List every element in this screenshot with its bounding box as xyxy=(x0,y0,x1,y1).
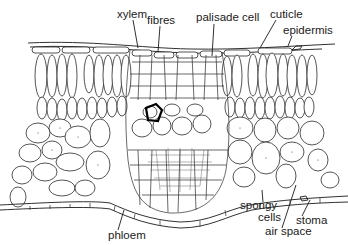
label-cuticle: cuticle xyxy=(270,8,303,20)
midrib-vascular-bundle xyxy=(126,50,229,213)
leaf-cross-section-diagram: xylem fibres palisade cell cuticle epide… xyxy=(0,0,348,245)
label-fibres: fibres xyxy=(147,14,175,26)
label-spongy: spongy xyxy=(240,199,277,211)
label-air-space: air space xyxy=(265,225,312,237)
label-epidermis: epidermis xyxy=(283,24,333,36)
palisade-layer-left xyxy=(35,54,131,121)
label-palisade-cell: palisade cell xyxy=(196,11,259,23)
label-phloem: phloem xyxy=(108,229,146,241)
palisade-layer-right xyxy=(222,53,317,119)
label-cells: cells xyxy=(258,211,281,223)
label-xylem: xylem xyxy=(117,8,147,20)
